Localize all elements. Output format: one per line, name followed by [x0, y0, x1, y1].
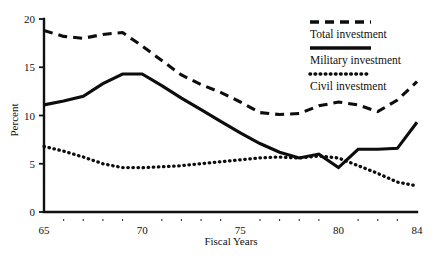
legend-label-total: Total investment [310, 28, 388, 40]
x-tick-label: 80 [333, 224, 345, 236]
legend-label-civil: Civil investment [310, 80, 387, 92]
y-tick-label: 15 [24, 61, 36, 73]
chart-figure: 05101520 6570758084 Total investment Mil… [0, 0, 432, 257]
y-tick-labels: 05101520 [24, 13, 36, 218]
legend-item-total: Total investment [310, 22, 388, 40]
y-tick-label: 0 [30, 206, 36, 218]
investment-line-chart: 05101520 6570758084 Total investment Mil… [0, 0, 432, 257]
y-tick-label: 5 [30, 158, 36, 170]
legend: Total investment Military investment Civ… [310, 22, 402, 92]
x-tick-label: 84 [412, 224, 424, 236]
x-tick-label: 70 [137, 224, 149, 236]
x-axis-title: Fiscal Years [204, 235, 257, 247]
x-tick-label: 65 [39, 224, 51, 236]
x-tick-marks [64, 219, 398, 221]
y-tick-label: 20 [24, 13, 36, 25]
series-civil-investment [44, 146, 417, 186]
legend-label-military: Military investment [310, 54, 402, 67]
y-axis-title: Percent [8, 104, 20, 137]
legend-item-civil: Civil investment [310, 74, 387, 92]
y-tick-label: 10 [24, 110, 36, 122]
legend-item-military: Military investment [310, 48, 402, 67]
